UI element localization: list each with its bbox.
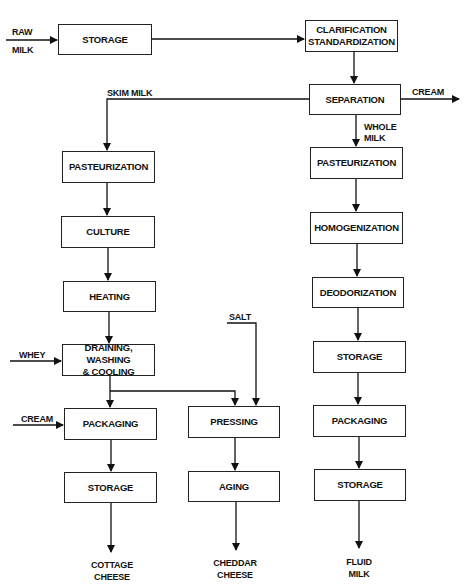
fluid-storage-box-2: STORAGE	[314, 469, 406, 501]
raw-milk-label-line1: RAW	[12, 27, 32, 38]
heating-box: HEATING	[63, 281, 156, 312]
clarification-text: CLARIFICATION	[316, 24, 387, 36]
cottage-pasteurization-box: PASTEURIZATION	[62, 151, 155, 183]
homogenization-text: HOMOGENIZATION	[314, 222, 399, 234]
cottage-storage-text: STORAGE	[88, 482, 133, 494]
cottage-cheese-label-line2: CHEESE	[82, 572, 142, 583]
separation-text: SEPARATION	[326, 94, 385, 106]
fluid-packaging-box: PACKAGING	[313, 405, 406, 437]
homogenization-box: HOMOGENIZATION	[310, 212, 403, 244]
storage-raw-text: STORAGE	[82, 34, 127, 46]
draining-washing-cooling-box: DRAINING, WASHING & COOLING	[62, 344, 155, 376]
draining-text-line2: & COOLING	[82, 366, 134, 378]
cheddar-cheese-label-line2: CHEESE	[205, 570, 265, 581]
fluid-pasteurization-box: PASTEURIZATION	[310, 147, 403, 179]
clarification-standardization-box: CLARIFICATION STANDARDIZATION	[305, 20, 398, 52]
culture-text: CULTURE	[86, 226, 129, 238]
skim-milk-label: SKIM MILK	[107, 88, 152, 99]
separation-box: SEPARATION	[309, 84, 401, 115]
cottage-cheese-label-line1: COTTAGE	[82, 560, 142, 571]
raw-milk-label-line2: MILK	[12, 45, 33, 56]
fluid-milk-label-line1: FLUID	[330, 557, 388, 568]
salt-label: SALT	[229, 312, 251, 323]
whey-label: WHEY	[19, 350, 45, 361]
storage-raw-box: STORAGE	[58, 24, 152, 55]
standardization-text: STANDARDIZATION	[308, 36, 395, 48]
whole-milk-label-line2: MILK	[364, 133, 385, 144]
pressing-text: PRESSING	[210, 416, 258, 428]
fluid-pasteurization-text: PASTEURIZATION	[317, 157, 396, 169]
cottage-pasteurization-text: PASTEURIZATION	[69, 161, 148, 173]
cream-input-label: CREAM	[21, 414, 53, 425]
aging-box: AGING	[188, 471, 280, 502]
deodorization-box: DEODORIZATION	[312, 277, 404, 308]
fluid-storage-box-1: STORAGE	[313, 341, 406, 373]
cheddar-cheese-label-line1: CHEDDAR	[205, 558, 265, 569]
deodorization-text: DEODORIZATION	[320, 287, 396, 299]
cream-output-label: CREAM	[412, 87, 444, 98]
dairy-process-flow-diagram: RAW MILK SKIM MILK CREAM WHOLE MILK SALT…	[0, 0, 471, 588]
cottage-packaging-box: PACKAGING	[64, 408, 157, 440]
aging-text: AGING	[219, 481, 249, 493]
pressing-box: PRESSING	[188, 406, 280, 438]
fluid-packaging-text: PACKAGING	[332, 415, 388, 427]
whole-milk-label-line1: WHOLE	[364, 122, 397, 133]
cottage-packaging-text: PACKAGING	[83, 418, 139, 430]
fluid-storage-text-2: STORAGE	[337, 479, 382, 491]
heating-text: HEATING	[89, 291, 130, 303]
cottage-storage-box: STORAGE	[64, 472, 157, 503]
fluid-storage-text-1: STORAGE	[337, 351, 382, 363]
fluid-milk-label-line2: MILK	[330, 569, 388, 580]
culture-box: CULTURE	[61, 216, 155, 248]
draining-text-line1: DRAINING, WASHING	[63, 342, 154, 366]
